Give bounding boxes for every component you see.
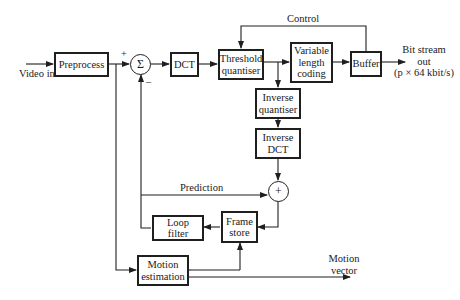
motion-vector-label-1: Motion	[329, 253, 360, 265]
vlc-label-3: coding	[297, 68, 326, 80]
vlc-label-1: Variable	[294, 45, 329, 57]
subtractor-plus-sign: +	[121, 49, 127, 59]
motion-vector-label-2: vector	[331, 265, 357, 277]
sigma-symbol: Σ	[137, 57, 144, 72]
control-label: Control	[287, 13, 319, 25]
motion-estimation-label-2: estimation	[141, 271, 185, 283]
subtractor-minus-sign: –	[146, 77, 151, 87]
dct-block: DCT	[170, 52, 199, 77]
variable-length-coding-block: Variable length coding	[290, 42, 333, 83]
preprocess-label: Preprocess	[59, 59, 105, 71]
bitstream-label-3: (p × 64 kbit/s)	[394, 67, 454, 79]
motion-vector-label: Motion vector	[322, 253, 366, 276]
frame-store-block: Frame store	[221, 211, 258, 243]
inverse-dct-label-1: Inverse	[263, 132, 294, 144]
frame-store-label-2: store	[229, 227, 249, 239]
bitstream-out-label: Bit stream out (p × 64 kbit/s)	[388, 44, 460, 79]
prediction-label: Prediction	[180, 182, 223, 194]
bitstream-label-1: Bit stream	[402, 44, 445, 56]
video-in-label: Video in	[19, 68, 55, 80]
inverse-quantiser-block: Inverse quantiser	[255, 88, 301, 119]
adder-plus-symbol: +	[275, 184, 282, 199]
bitstream-label-2: out	[417, 56, 430, 68]
subtractor-node: Σ	[130, 54, 151, 75]
threshold-quantiser-block: Threshold quantiser	[218, 49, 264, 80]
inverse-dct-label-2: DCT	[268, 144, 289, 156]
inverse-quantiser-label-1: Inverse	[263, 92, 294, 104]
adder-node: +	[268, 181, 289, 202]
loop-filter-label-2: filter	[168, 228, 188, 240]
buffer-label: Buffer	[352, 58, 379, 70]
threshold-quantiser-label-1: Threshold	[220, 53, 263, 65]
vlc-label-2: length	[298, 57, 324, 69]
motion-estimation-block: Motion estimation	[137, 255, 189, 286]
loop-filter-label-1: Loop	[167, 217, 189, 229]
dct-label: DCT	[174, 59, 195, 71]
frame-store-label-1: Frame	[226, 216, 253, 228]
threshold-quantiser-label-2: quantiser	[222, 65, 261, 77]
motion-estimation-label-1: Motion	[148, 259, 179, 271]
inverse-dct-block: Inverse DCT	[255, 128, 301, 159]
buffer-block: Buffer	[350, 51, 382, 77]
inverse-quantiser-label-2: quantiser	[259, 104, 298, 116]
preprocess-block: Preprocess	[54, 52, 109, 77]
loop-filter-block: Loop filter	[152, 215, 204, 241]
